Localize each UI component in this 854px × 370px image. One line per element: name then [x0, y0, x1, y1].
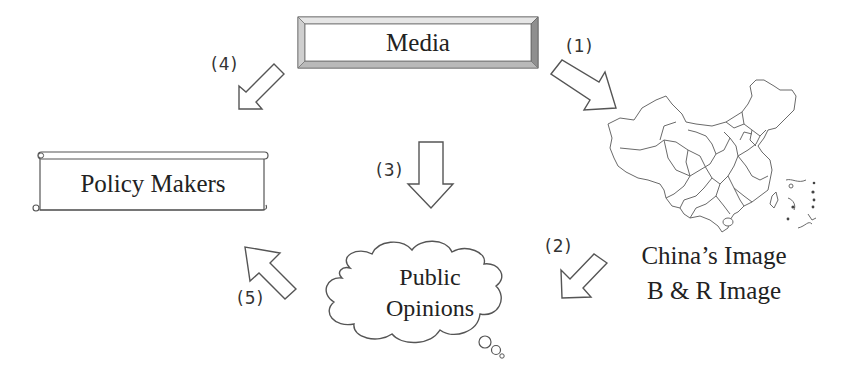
edge-label-4: (4)	[211, 54, 238, 74]
edge-label-2: (2)	[545, 236, 572, 256]
policy-makers-label: Policy Makers	[42, 164, 264, 204]
arrow-2-icon	[561, 254, 607, 298]
china-map-icon	[608, 80, 816, 232]
public-opinions-label-line2: Opinions	[360, 293, 500, 323]
arrow-4-icon	[239, 64, 284, 109]
edge-label-5: (5)	[237, 288, 264, 308]
media-label: Media	[305, 24, 531, 61]
arrow-3-icon	[408, 142, 453, 208]
arrow-1-icon	[551, 60, 616, 110]
public-opinions-label-line1: Public	[370, 262, 490, 292]
edge-label-3: (3)	[376, 160, 403, 180]
edge-label-1: (1)	[566, 36, 593, 56]
br-image-label: B & R Image	[616, 275, 812, 307]
china-image-label: China’s Image	[616, 240, 812, 272]
